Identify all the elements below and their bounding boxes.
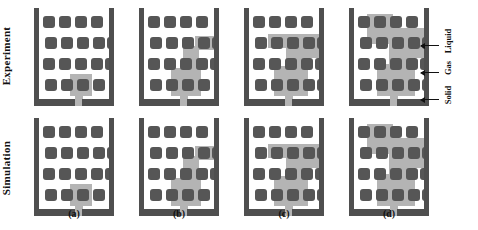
pillar (376, 79, 388, 91)
pillar (91, 168, 103, 180)
pillar (271, 79, 283, 91)
solid-wall-left (139, 118, 144, 210)
solid-wall-left (349, 8, 354, 100)
pillar (271, 37, 283, 49)
pillar (358, 58, 370, 70)
pillar (301, 126, 313, 138)
pillar (91, 126, 103, 138)
liquid-stem (285, 96, 292, 106)
pillar (406, 168, 418, 180)
pillar (45, 189, 57, 201)
pillar (148, 126, 160, 138)
pillar (358, 168, 370, 180)
pillar (150, 79, 162, 91)
pillar (406, 126, 418, 138)
pillar (59, 126, 71, 138)
pillar (255, 79, 267, 91)
pillar (166, 147, 178, 159)
pillar (360, 37, 372, 49)
pillar (148, 16, 160, 28)
pillar (93, 147, 105, 159)
figure-panel-grid: Experiment Simulation (a) (b) (c) (d) Li… (0, 0, 478, 230)
pillar (269, 126, 281, 138)
pillar (45, 147, 57, 159)
pillar (374, 16, 386, 28)
pillar (408, 147, 420, 159)
solid-wall-right (319, 8, 324, 100)
pillar (166, 37, 178, 49)
pillar (45, 37, 57, 49)
solid-wall-right (214, 118, 219, 210)
pillar (43, 168, 55, 180)
pillar (303, 147, 315, 159)
pillar (255, 147, 267, 159)
pillar (285, 168, 297, 180)
pillar (301, 168, 313, 180)
pillar (198, 37, 210, 49)
pillar (77, 147, 89, 159)
pillar (91, 16, 103, 28)
pillar (253, 126, 265, 138)
liquid-stem (180, 96, 187, 106)
column-label-a: (a) (34, 208, 114, 219)
legend-arrow-liquid (421, 45, 439, 46)
pillar (43, 16, 55, 28)
pillar (360, 79, 372, 91)
pillar (287, 189, 299, 201)
pillar (303, 37, 315, 49)
pillar (271, 189, 283, 201)
pillar (392, 79, 404, 91)
pillar (150, 189, 162, 201)
solid-wall-left (139, 8, 144, 100)
pillar (287, 147, 299, 159)
pillar (358, 126, 370, 138)
pillar (77, 189, 89, 201)
pillar (196, 58, 208, 70)
solid-wall-left (34, 118, 39, 210)
solid-wall-right (214, 8, 219, 100)
pillar (59, 58, 71, 70)
pillar (164, 16, 176, 28)
pillar (196, 168, 208, 180)
pillar (198, 147, 210, 159)
pillar (269, 16, 281, 28)
pillar (253, 16, 265, 28)
pillar (198, 189, 210, 201)
pillar (182, 189, 194, 201)
row-label-simulation: Simulation (0, 118, 16, 218)
solid-wall-right (424, 8, 429, 100)
solid-substrate (34, 99, 114, 106)
solid-wall-left (349, 118, 354, 210)
pillar (75, 58, 87, 70)
pillar (61, 147, 73, 159)
pillar (269, 58, 281, 70)
pillar (198, 79, 210, 91)
pillar (75, 168, 87, 180)
pillar (392, 189, 404, 201)
pillar (376, 37, 388, 49)
pillar (43, 126, 55, 138)
solid-substrate (139, 99, 219, 106)
row-label-experiment: Experiment (0, 6, 16, 106)
pillar (75, 16, 87, 28)
pillar (374, 168, 386, 180)
solid-wall-right (109, 8, 114, 100)
pillar (285, 16, 297, 28)
solid-wall-right (109, 118, 114, 210)
pillar (61, 79, 73, 91)
pillar (45, 79, 57, 91)
pillar (390, 168, 402, 180)
pillar (93, 189, 105, 201)
pillar (150, 37, 162, 49)
pillar (285, 126, 297, 138)
panel-simulation-a (34, 118, 114, 216)
pillar (392, 147, 404, 159)
pillar (285, 58, 297, 70)
column-label-c: (c) (244, 208, 324, 219)
pillar (148, 58, 160, 70)
solid-wall-right (319, 118, 324, 210)
pillar (43, 58, 55, 70)
panel-experiment-b (139, 8, 219, 106)
pillar (301, 16, 313, 28)
pillar (374, 58, 386, 70)
